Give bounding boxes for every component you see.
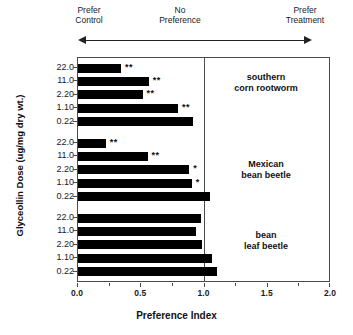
x-minor-tick-mark bbox=[298, 283, 299, 286]
bar-row bbox=[78, 117, 329, 126]
x-tick-mark bbox=[140, 283, 141, 287]
bar bbox=[78, 254, 212, 263]
arrow-shaft bbox=[85, 40, 305, 41]
y-tick-label: 11.0 bbox=[40, 76, 74, 85]
bar-row bbox=[78, 214, 329, 223]
bar bbox=[78, 64, 121, 73]
bar-row: ** bbox=[78, 152, 329, 161]
y-tick-mark bbox=[73, 94, 77, 95]
y-tick-label: 22.0 bbox=[40, 63, 74, 72]
significance-marker: ** bbox=[182, 102, 190, 112]
y-tick-mark bbox=[73, 107, 77, 108]
bar bbox=[78, 214, 201, 223]
bar bbox=[78, 77, 149, 86]
significance-marker: * bbox=[196, 177, 200, 187]
bar bbox=[78, 240, 202, 249]
bar-row: * bbox=[78, 179, 329, 188]
y-tick-label: 0.22 bbox=[40, 117, 74, 126]
bar bbox=[78, 117, 193, 126]
y-tick-mark bbox=[73, 230, 77, 231]
bar-row: ** bbox=[78, 90, 329, 99]
y-tick-mark bbox=[73, 257, 77, 258]
bar-row bbox=[78, 267, 329, 276]
y-tick-label: 0.22 bbox=[40, 267, 74, 276]
x-minor-tick-mark bbox=[172, 283, 173, 286]
bar bbox=[78, 104, 178, 113]
significance-marker: ** bbox=[153, 75, 161, 85]
y-tick-label: 2.20 bbox=[40, 90, 74, 99]
bar-row: ** bbox=[78, 104, 329, 113]
figure: Prefer Control No Preference Prefer Trea… bbox=[0, 0, 353, 335]
significance-marker: ** bbox=[110, 137, 118, 147]
no-preference-label: No Preference bbox=[145, 5, 215, 25]
bar-row: ** bbox=[78, 139, 329, 148]
bar bbox=[78, 152, 148, 161]
x-tick-mark bbox=[77, 283, 78, 287]
prefer-control-label: Prefer Control bbox=[58, 5, 120, 25]
significance-marker: ** bbox=[147, 88, 155, 98]
x-tick-label: 0.5 bbox=[134, 288, 146, 298]
bar bbox=[78, 227, 196, 236]
y-axis-title: Glyceollin Dose (ug/mg dry wt.) bbox=[14, 51, 25, 281]
bar bbox=[78, 179, 192, 188]
plot-area: southern corn rootworm ******** Mexican … bbox=[77, 57, 330, 282]
y-tick-mark bbox=[73, 244, 77, 245]
x-minor-tick-mark bbox=[109, 283, 110, 286]
y-tick-mark bbox=[73, 142, 77, 143]
bar-row: * bbox=[78, 165, 329, 174]
y-tick-label: 22.0 bbox=[40, 213, 74, 222]
bar bbox=[78, 165, 189, 174]
y-tick-mark bbox=[73, 169, 77, 170]
y-tick-label: 2.20 bbox=[40, 165, 74, 174]
y-tick-label: 1.10 bbox=[40, 178, 74, 187]
y-tick-mark bbox=[73, 155, 77, 156]
y-tick-mark bbox=[73, 182, 77, 183]
y-tick-label: 0.22 bbox=[40, 192, 74, 201]
bar-row: ** bbox=[78, 64, 329, 73]
double-headed-arrow-icon bbox=[78, 36, 312, 45]
group-bean-leaf-beetle: bean leaf beetle bbox=[78, 208, 329, 283]
bar bbox=[78, 139, 106, 148]
significance-marker: ** bbox=[152, 150, 160, 160]
y-tick-label: 1.10 bbox=[40, 253, 74, 262]
x-minor-tick-mark bbox=[235, 283, 236, 286]
prefer-treatment-label: Prefer Treatment bbox=[268, 5, 342, 25]
bar-row: ** bbox=[78, 77, 329, 86]
significance-marker: * bbox=[193, 163, 197, 173]
group-southern-corn-rootworm: southern corn rootworm ******** bbox=[78, 58, 329, 133]
y-tick-mark bbox=[73, 67, 77, 68]
significance-marker: ** bbox=[125, 62, 133, 72]
y-tick-label: 2.20 bbox=[40, 240, 74, 249]
y-tick-mark bbox=[73, 271, 77, 272]
group-mexican-bean-beetle: Mexican bean beetle ****** bbox=[78, 133, 329, 208]
y-tick-label: 11.0 bbox=[40, 151, 74, 160]
y-tick-label: 22.0 bbox=[40, 138, 74, 147]
bar-row bbox=[78, 240, 329, 249]
bar bbox=[78, 192, 210, 201]
x-tick-label: 2.0 bbox=[324, 288, 336, 298]
x-tick-label: 0.0 bbox=[71, 288, 83, 298]
y-tick-mark bbox=[73, 80, 77, 81]
x-tick-mark bbox=[329, 283, 330, 287]
bar-row bbox=[78, 254, 329, 263]
bar bbox=[78, 90, 143, 99]
y-tick-label: 1.10 bbox=[40, 103, 74, 112]
x-tick-mark bbox=[267, 283, 268, 287]
bar-row bbox=[78, 192, 329, 201]
bar-row bbox=[78, 227, 329, 236]
x-tick-mark bbox=[204, 283, 205, 287]
y-tick-mark bbox=[73, 121, 77, 122]
y-tick-label: 11.0 bbox=[40, 226, 74, 235]
y-tick-mark bbox=[73, 196, 77, 197]
y-tick-mark bbox=[73, 217, 77, 218]
x-axis-title: Preference Index bbox=[0, 310, 353, 321]
x-axis-ticklabels: 0.00.51.01.52.0 bbox=[77, 283, 330, 301]
x-tick-label: 1.5 bbox=[261, 288, 273, 298]
arrow-head-right-icon bbox=[304, 36, 312, 44]
x-tick-label: 1.0 bbox=[198, 288, 210, 298]
bar bbox=[78, 267, 217, 276]
